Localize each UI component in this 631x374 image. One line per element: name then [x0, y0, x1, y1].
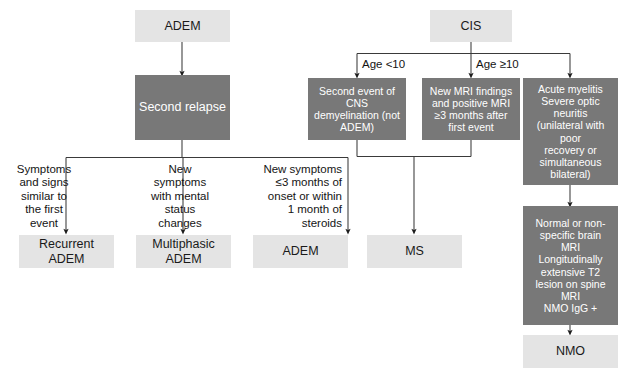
node-second-event-cns[interactable]: Second event of CNS demyelination (not A… [308, 78, 406, 140]
node-cis-root[interactable]: CIS [430, 10, 512, 42]
node-nmo-outcome[interactable]: NMO [523, 335, 618, 368]
node-multiphasic-adem[interactable]: Multiphasic ADEM [136, 235, 231, 268]
node-normal-brain-mri[interactable]: Normal or non- specific brain MRI Longit… [523, 206, 618, 325]
node-adem-root[interactable]: ADEM [135, 10, 230, 42]
edge-label-new-symptoms-3months: New symptoms ≤3 months of onset or withi… [234, 163, 342, 230]
edge-label-new-symptoms-mental: New symptoms with mental status changes [130, 163, 230, 230]
node-second-relapse[interactable]: Second relapse [135, 75, 230, 140]
node-recurrent-adem[interactable]: Recurrent ADEM [19, 235, 114, 268]
node-adem-outcome[interactable]: ADEM [253, 235, 348, 268]
flowchart-canvas: ADEM Second relapse Symptoms and signs s… [0, 0, 631, 374]
node-new-mri-findings[interactable]: New MRI findings and positive MRI ≥3 mon… [422, 78, 520, 140]
edge-label-age-10-or-over: Age ≥10 [476, 58, 538, 71]
edge-label-symptoms-similar: Symptoms and signs similar to the first … [8, 163, 80, 230]
node-ms-outcome[interactable]: MS [367, 235, 462, 268]
edge-label-age-under-10: Age <10 [362, 58, 424, 71]
node-acute-myelitis[interactable]: Acute myelitis Severe optic neuritis (un… [523, 78, 618, 185]
